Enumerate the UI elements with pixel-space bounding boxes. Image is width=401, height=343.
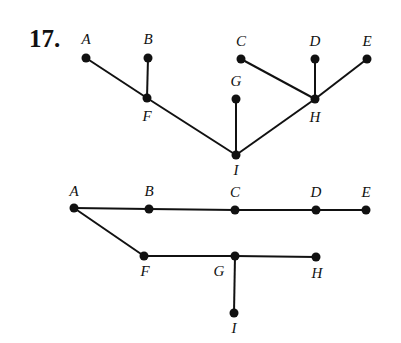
edge-g-h bbox=[235, 256, 316, 257]
edge-g-i bbox=[234, 256, 235, 313]
edge-i-h bbox=[236, 99, 315, 155]
vertex-i bbox=[230, 309, 239, 318]
vertex-label-f: F bbox=[141, 108, 152, 124]
vertex-label-a: A bbox=[80, 31, 91, 47]
tree-graph: ABFCDEGHI bbox=[80, 31, 371, 178]
edge-b-c bbox=[149, 209, 235, 210]
vertex-i bbox=[232, 151, 241, 160]
edge-a-b bbox=[74, 208, 149, 209]
vertex-label-g: G bbox=[231, 73, 242, 89]
graph-diagram: ABFCDEGHI ABCDEFGHI bbox=[0, 0, 401, 343]
vertex-g bbox=[232, 95, 241, 104]
vertex-label-g: G bbox=[214, 263, 225, 279]
vertex-label-b: B bbox=[144, 183, 153, 199]
vertex-label-h: H bbox=[309, 109, 322, 125]
vertex-b bbox=[144, 54, 153, 63]
edge-a-f bbox=[86, 58, 147, 98]
vertex-a bbox=[82, 54, 91, 63]
vertex-label-i: I bbox=[233, 162, 240, 178]
vertex-f bbox=[143, 94, 152, 103]
vertex-label-a: A bbox=[68, 183, 79, 199]
vertex-g bbox=[231, 252, 240, 261]
edge-c-h bbox=[241, 59, 315, 99]
path-graph: ABCDEFGHI bbox=[68, 183, 370, 336]
vertex-label-c: C bbox=[236, 33, 247, 49]
vertex-e bbox=[363, 55, 372, 64]
vertex-c bbox=[237, 55, 246, 64]
vertex-label-h: H bbox=[311, 265, 324, 281]
vertex-d bbox=[312, 206, 321, 215]
vertex-h bbox=[312, 253, 321, 262]
vertex-label-f: F bbox=[139, 263, 150, 279]
edge-e-h bbox=[315, 59, 367, 99]
edge-f-i bbox=[147, 98, 236, 155]
vertex-label-d: D bbox=[310, 184, 322, 200]
vertex-label-e: E bbox=[361, 33, 371, 49]
vertex-label-c: C bbox=[230, 184, 241, 200]
vertex-e bbox=[362, 206, 371, 215]
vertex-label-d: D bbox=[309, 33, 321, 49]
vertex-label-e: E bbox=[360, 184, 370, 200]
edge-b-f bbox=[147, 58, 148, 98]
vertex-label-i: I bbox=[231, 320, 238, 336]
vertex-f bbox=[140, 252, 149, 261]
vertex-b bbox=[145, 205, 154, 214]
edge-a-f bbox=[74, 208, 144, 256]
vertex-d bbox=[311, 55, 320, 64]
vertex-a bbox=[70, 204, 79, 213]
vertex-label-b: B bbox=[143, 31, 152, 47]
vertex-h bbox=[311, 95, 320, 104]
vertex-c bbox=[231, 206, 240, 215]
